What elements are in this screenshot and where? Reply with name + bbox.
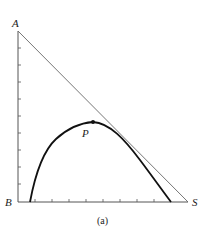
label-B: B	[5, 196, 12, 208]
figure-caption: (a)	[97, 215, 108, 227]
hypotenuse-AS	[18, 31, 188, 202]
plait-point-marker	[91, 120, 95, 124]
binodal-curve	[30, 122, 171, 202]
label-P: P	[81, 127, 89, 139]
label-A: A	[11, 17, 19, 29]
triangle-curve-diagram: A B S P (a)	[0, 0, 205, 235]
label-S: S	[192, 196, 198, 208]
